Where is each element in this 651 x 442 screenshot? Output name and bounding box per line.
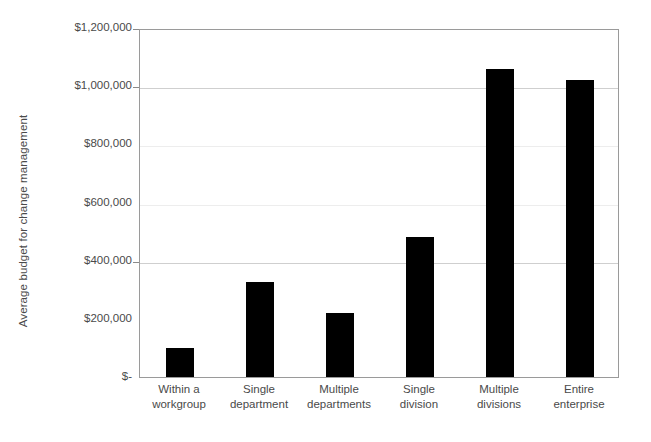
bar-chart-figure: Average budget for change management $-$… — [0, 0, 651, 442]
bar[interactable] — [406, 237, 434, 377]
gridline — [140, 88, 618, 89]
gridline — [140, 263, 618, 264]
y-axis-tick-label: $200,000 — [28, 312, 132, 324]
x-axis-category-line: workgroup — [140, 397, 218, 412]
gridline — [140, 146, 618, 147]
x-axis-category-line: Multiple — [300, 382, 378, 397]
x-axis-category-line: enterprise — [540, 397, 618, 412]
x-axis-category-label: Multipledivisions — [459, 382, 539, 428]
x-axis-category-label: Entireenterprise — [539, 382, 619, 428]
gridline — [140, 205, 618, 206]
y-axis-tick-label: $1,200,000 — [28, 21, 132, 33]
bar[interactable] — [486, 69, 514, 377]
x-axis-category-line: Within a — [140, 382, 218, 397]
x-axis-category-line: Single — [220, 382, 298, 397]
plot-area — [139, 29, 619, 378]
y-axis-tick-label: $1,000,000 — [28, 79, 132, 91]
x-axis-category-line: Single — [380, 382, 458, 397]
bar[interactable] — [566, 80, 594, 377]
x-axis-category-label: Singledepartment — [219, 382, 299, 428]
y-axis-tick-label: $800,000 — [28, 137, 132, 149]
x-axis-category-label: Multipledepartments — [299, 382, 379, 428]
x-axis-category-line: department — [220, 397, 298, 412]
y-axis-tick-label: $600,000 — [28, 196, 132, 208]
y-axis-tick-label: $- — [28, 370, 132, 382]
y-axis-tick-label: $400,000 — [28, 254, 132, 266]
x-axis-category-labels: Within aworkgroupSingledepartmentMultipl… — [139, 382, 619, 428]
x-axis-category-line: division — [380, 397, 458, 412]
x-axis-category-line: Entire — [540, 382, 618, 397]
x-axis-category-line: Multiple — [460, 382, 538, 397]
x-axis-category-line: departments — [300, 397, 378, 412]
x-axis-category-line: divisions — [460, 397, 538, 412]
x-axis-category-label: Singledivision — [379, 382, 459, 428]
x-axis-category-label: Within aworkgroup — [139, 382, 219, 428]
bar[interactable] — [246, 282, 274, 377]
bar[interactable] — [326, 313, 354, 377]
bar[interactable] — [166, 348, 194, 377]
